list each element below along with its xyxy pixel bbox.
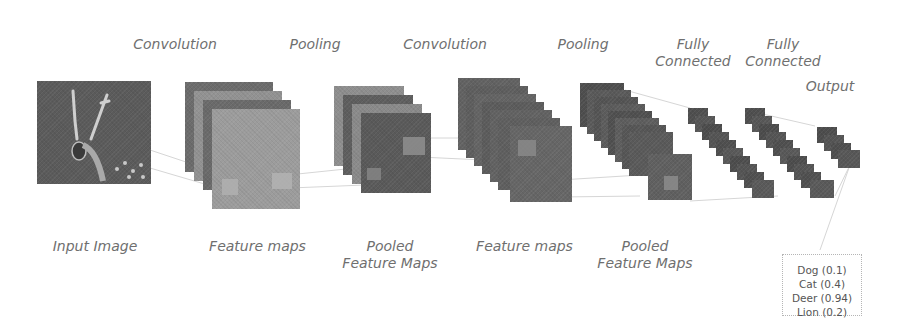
feature-map	[212, 109, 300, 209]
pooled-2-line-2: Feature Maps	[590, 255, 700, 272]
stage-label-convolution-1: Convolution	[130, 36, 220, 53]
label-feature-maps-1: Feature maps	[205, 238, 310, 255]
pooled-2-line-1: Pooled	[590, 238, 700, 255]
stage-label-fully-connected-1: Fully Connected	[654, 36, 732, 70]
input-image	[37, 81, 151, 184]
pooled-map	[361, 113, 431, 193]
label-pooled-feature-maps-2: Pooled Feature Maps	[590, 238, 700, 272]
neuron	[752, 180, 774, 198]
output-class-probabilities: Dog (0.1) Cat (0.4) Deer (0.94) Lion (0.…	[782, 254, 862, 316]
pooling-patch	[403, 137, 425, 155]
output-class-dog: Dog (0.1)	[783, 263, 861, 277]
pooling-patch	[367, 168, 381, 180]
receptive-field-patch	[518, 140, 536, 156]
neuron	[810, 180, 834, 198]
stage-label-output: Output	[800, 78, 860, 95]
feature-map	[510, 126, 572, 202]
deer-silhouette-icon	[37, 81, 151, 184]
fc2-line-1: Fully	[744, 36, 822, 53]
fc1-line-2: Connected	[654, 53, 732, 70]
stage-label-convolution-2: Convolution	[400, 36, 490, 53]
output-class-deer: Deer (0.94)	[783, 291, 861, 305]
output-class-lion: Lion (0.2)	[783, 305, 861, 319]
label-pooled-feature-maps-1: Pooled Feature Maps	[335, 238, 445, 272]
pooled-1-line-2: Feature Maps	[335, 255, 445, 272]
stage-label-pooling-1: Pooling	[280, 36, 350, 53]
label-feature-maps-2: Feature maps	[472, 238, 577, 255]
receptive-field-patch	[222, 179, 238, 195]
fc2-line-2: Connected	[744, 53, 822, 70]
stage-label-pooling-2: Pooling	[553, 36, 613, 53]
fc1-line-1: Fully	[654, 36, 732, 53]
output-class-cat: Cat (0.4)	[783, 277, 861, 291]
pooling-patch	[664, 176, 678, 190]
stage-label-fully-connected-2: Fully Connected	[744, 36, 822, 70]
receptive-field-patch	[272, 173, 292, 189]
pooled-1-line-1: Pooled	[335, 238, 445, 255]
label-input-image: Input Image	[40, 238, 150, 255]
pooled-map	[648, 154, 692, 200]
output-neuron	[838, 150, 860, 168]
